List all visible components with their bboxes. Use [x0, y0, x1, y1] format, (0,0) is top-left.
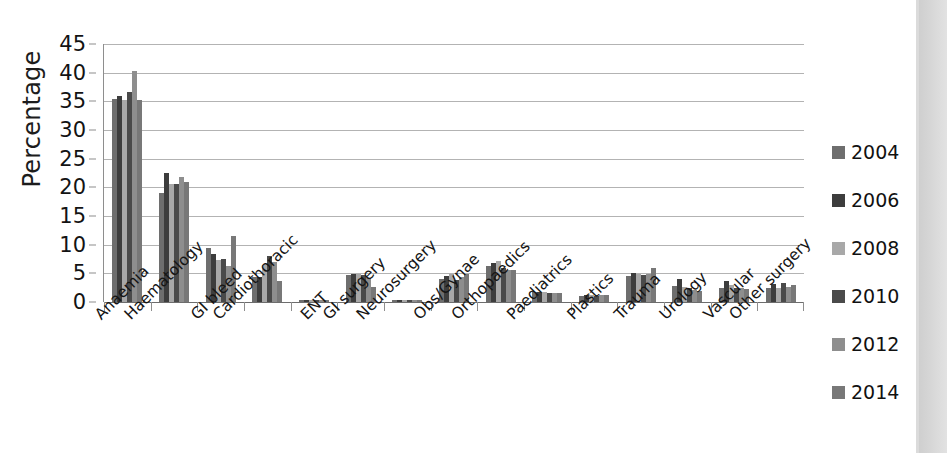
y-tick-label: 10 [59, 234, 86, 255]
legend-label: 2014 [851, 383, 899, 402]
x-label-cell: Anaemia [104, 306, 151, 436]
x-label-cell: Trauma [617, 306, 664, 436]
legend-label: 2010 [851, 287, 899, 306]
y-tick-mark [89, 130, 96, 131]
y-tick-label: 0 [73, 292, 86, 313]
legend-item[interactable]: 2004 [832, 128, 922, 176]
y-tick-label: 40 [59, 62, 86, 83]
legend-label: 2012 [851, 335, 899, 354]
y-tick-label: 15 [59, 206, 86, 227]
y-tick-label: 30 [59, 120, 86, 141]
legend-label: 2008 [851, 239, 899, 258]
bar [557, 293, 562, 302]
bar [791, 285, 796, 302]
legend-item[interactable]: 2006 [832, 176, 922, 224]
y-tick-label: 35 [59, 91, 86, 112]
legend-item[interactable]: 2008 [832, 224, 922, 272]
x-label-cell: Cardiothoracic [244, 306, 291, 436]
y-tick-mark [89, 302, 96, 303]
x-label-cell: GI surgery [337, 306, 384, 436]
x-label-cell: GI bleed [197, 306, 244, 436]
bar-group [197, 44, 244, 302]
y-tick-mark [89, 244, 96, 245]
y-tick-mark [89, 158, 96, 159]
bar-group [571, 44, 618, 302]
legend-item[interactable]: 2012 [832, 320, 922, 368]
legend-swatch-icon [832, 290, 845, 303]
bar-group [617, 44, 664, 302]
x-label-cell: Paediatrics [524, 306, 571, 436]
y-tick-mark [89, 216, 96, 217]
y-tick-mark [89, 187, 96, 188]
x-label-cell: Haematology [151, 306, 198, 436]
y-tick-mark [89, 273, 96, 274]
x-label-cell: Obs/Gynae [431, 306, 478, 436]
page-edge-strip [919, 0, 947, 453]
legend-label: 2004 [851, 143, 899, 162]
bar-groups [104, 44, 804, 302]
x-label-cell: Orthopaedics [477, 306, 524, 436]
bar-group [664, 44, 711, 302]
x-axis-category-labels: AnaemiaHaematologyGI bleedCardiothoracic… [104, 306, 804, 436]
y-tick-label: 20 [59, 177, 86, 198]
x-label-cell: ENT [291, 306, 338, 436]
bar-group [104, 44, 151, 302]
legend-swatch-icon [832, 194, 845, 207]
y-tick-mark [89, 101, 96, 102]
y-tick-mark [89, 44, 96, 45]
bar [604, 295, 609, 302]
x-label-cell: Plastics [571, 306, 618, 436]
y-tick-mark [89, 72, 96, 73]
legend: 200420062008201020122014 [832, 128, 922, 416]
y-axis-tick-labels: 051015202530354045 [40, 44, 96, 302]
y-tick-label: 45 [59, 34, 86, 55]
legend-swatch-icon [832, 386, 845, 399]
x-label-cell: Other surgery [757, 306, 804, 436]
x-label-cell: Vascular [711, 306, 758, 436]
plot-area [104, 44, 804, 302]
chart-canvas: Percentage 051015202530354045 AnaemiaHae… [0, 0, 947, 453]
legend-label: 2006 [851, 191, 899, 210]
bar-group [711, 44, 758, 302]
legend-swatch-icon [832, 242, 845, 255]
bar [277, 281, 282, 302]
bar-group [291, 44, 338, 302]
legend-swatch-icon [832, 146, 845, 159]
y-tick-label: 25 [59, 148, 86, 169]
y-tick-label: 5 [73, 263, 86, 284]
x-label-cell: Urology [664, 306, 711, 436]
legend-swatch-icon [832, 338, 845, 351]
x-label-cell: Neurosurgery [384, 306, 431, 436]
legend-item[interactable]: 2014 [832, 368, 922, 416]
legend-item[interactable]: 2010 [832, 272, 922, 320]
